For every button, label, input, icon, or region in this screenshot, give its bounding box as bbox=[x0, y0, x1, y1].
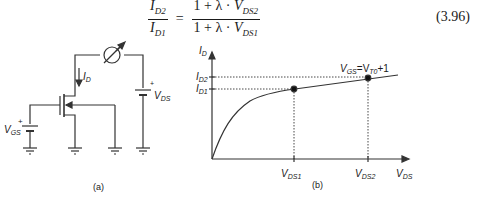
ground-icon bbox=[108, 148, 122, 154]
current-arrowhead-icon bbox=[76, 80, 82, 86]
tick-label-id1: ID1 bbox=[196, 83, 208, 95]
tick-label-vds1: VDS1 bbox=[281, 168, 301, 180]
vds-label: VDS bbox=[154, 90, 171, 102]
point-1 bbox=[291, 86, 297, 92]
x-axis-label: VDS bbox=[396, 168, 413, 180]
vds-plus: + bbox=[150, 80, 154, 87]
source-lead bbox=[64, 115, 75, 148]
circuit-diagram: ID + VDS + VGS (a) ID ID2 ID1 VDS1 VDS2 … bbox=[0, 0, 478, 200]
tick-label-id2: ID2 bbox=[196, 71, 208, 83]
iv-curve bbox=[212, 75, 398, 159]
tick-label-vds2: VDS2 bbox=[355, 168, 375, 180]
curve-label: VGS=VT0+1 bbox=[340, 63, 389, 75]
ground-icon bbox=[136, 148, 150, 154]
drain-lead bbox=[64, 92, 75, 96]
body-arrow-icon bbox=[66, 102, 72, 108]
ground-icon bbox=[23, 148, 37, 154]
y-axis-label: ID bbox=[199, 45, 207, 57]
ground-icon bbox=[68, 148, 82, 154]
caption-b: (b) bbox=[312, 180, 323, 190]
caption-a: (a) bbox=[93, 182, 104, 192]
vgs-plus: + bbox=[18, 117, 23, 126]
id-label: ID bbox=[83, 71, 91, 83]
y-axis-arrowhead-icon bbox=[209, 52, 215, 59]
x-axis-arrowhead-icon bbox=[402, 156, 409, 162]
point-2 bbox=[365, 75, 371, 81]
top-wire bbox=[124, 55, 143, 88]
gate-wire bbox=[30, 105, 60, 124]
